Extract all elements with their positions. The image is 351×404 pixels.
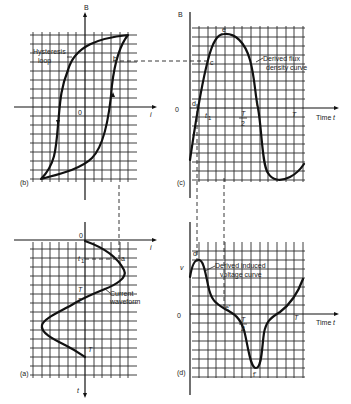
point-d-label: d bbox=[192, 100, 196, 107]
tick-half-period-den: 2 bbox=[241, 325, 245, 332]
tick-half-period-den: 2 bbox=[241, 120, 245, 127]
panel-b-origin: 0 bbox=[78, 109, 82, 116]
tick-half-period-num: T bbox=[241, 316, 246, 323]
panel-b-x-label: i bbox=[150, 111, 152, 118]
panel-a-y-label: t bbox=[77, 387, 80, 394]
point-e-label: e bbox=[222, 26, 226, 33]
panel-b-y-label: B bbox=[84, 4, 89, 11]
point-d-prime-label: d' bbox=[193, 250, 198, 257]
panel-d-x-label: Time bbox=[316, 319, 331, 326]
arrow-down-icon bbox=[83, 393, 87, 398]
annotation-leader bbox=[256, 58, 263, 62]
tick-half-period-num: T bbox=[241, 110, 246, 117]
panel-d-voltage: v Time t 0 Derived induced voltage curve… bbox=[177, 222, 339, 395]
panel-a-tag: (a) bbox=[20, 370, 29, 378]
arrow-right-icon bbox=[334, 106, 339, 110]
tick-half-period-den: 2 bbox=[78, 297, 82, 304]
panel-a-current: t i 0 Current waveform a t 1 T 2 T (a) bbox=[14, 222, 157, 398]
voltage-annotation: Derived induced bbox=[215, 262, 266, 269]
panel-a-origin: 0 bbox=[79, 232, 83, 239]
arrow-right-icon bbox=[334, 312, 339, 316]
flux-annotation: density curve bbox=[266, 64, 307, 72]
panel-a-x-label: i bbox=[150, 244, 152, 251]
tick-period-label: T bbox=[292, 111, 297, 118]
annotation-leader bbox=[205, 266, 215, 271]
point-f-prime-label: f' bbox=[253, 371, 256, 378]
flux-annotation: Derived flux bbox=[263, 55, 300, 62]
current-annotation: Current bbox=[110, 290, 133, 297]
panel-d-y-label: v bbox=[180, 264, 184, 271]
panel-d-tag: (d) bbox=[177, 369, 186, 377]
point-f-label: f bbox=[256, 100, 258, 107]
point-a-label: a bbox=[121, 255, 125, 262]
panel-b-hysteresis: B i 0 Hysteresis loop b (b) bbox=[14, 4, 157, 200]
point-e-prime-label: e' bbox=[225, 304, 230, 311]
arrow-right-icon bbox=[152, 105, 157, 109]
hysteresis-annotation: Hysteresis bbox=[33, 48, 66, 56]
point-c-label: c bbox=[210, 59, 214, 66]
panel-c-flux-density: B Time t 0 Derived flux density curve c … bbox=[175, 11, 339, 198]
magnetization-diagram: B i 0 Hysteresis loop b (b) bbox=[0, 0, 351, 404]
arrow-right-icon bbox=[152, 238, 157, 242]
panel-c-x-label-var: t bbox=[333, 114, 336, 121]
panel-d-x-label-var: t bbox=[333, 319, 336, 326]
panel-c-tag: (c) bbox=[177, 179, 185, 187]
panel-b-tag: (b) bbox=[20, 179, 29, 187]
tick-half-period-num: T bbox=[78, 286, 83, 293]
tick-period-label: T bbox=[88, 346, 93, 353]
panel-c-grid bbox=[192, 26, 305, 182]
hysteresis-annotation: loop bbox=[38, 57, 51, 65]
panel-c-origin: 0 bbox=[175, 106, 179, 113]
panel-d-origin: 0 bbox=[177, 312, 181, 319]
panel-c-y-label: B bbox=[178, 11, 183, 18]
voltage-annotation: voltage curve bbox=[220, 271, 262, 279]
arrow-up-icon bbox=[83, 12, 87, 17]
tick-period-label: T bbox=[294, 314, 299, 321]
current-annotation: waveform bbox=[109, 298, 141, 305]
panel-c-x-label: Time bbox=[316, 114, 331, 121]
tick-t1-subscript: 1 bbox=[208, 115, 212, 121]
